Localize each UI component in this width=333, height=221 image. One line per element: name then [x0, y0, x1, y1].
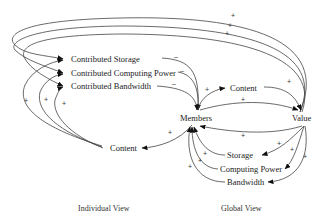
- polarity-plus: +: [228, 22, 232, 29]
- edge-value-to-members: [200, 126, 302, 132]
- polarity-plus: +: [24, 97, 28, 104]
- causal-loop-diagram: [0, 0, 333, 221]
- node-contributed-bandwidth: Contributed Bandwidth: [71, 82, 151, 91]
- polarity-plus: +: [44, 96, 48, 103]
- node-storage: Storage: [227, 151, 253, 160]
- edge-storage-to-members: [194, 127, 225, 155]
- edge-computing-to-members: [192, 127, 218, 169]
- node-computing-power: Computing Power: [220, 165, 282, 174]
- caption-individual-view: Individual View: [78, 204, 130, 213]
- edge-content-global-to-value: [264, 87, 301, 110]
- polarity-plus: +: [198, 157, 202, 164]
- edge-content-to-contributed-bandwidth: [55, 87, 103, 148]
- edge-contributed-storage-to-members: [162, 58, 198, 110]
- polarity-plus: +: [225, 30, 229, 37]
- polarity-minus: –: [180, 67, 184, 74]
- node-bandwidth: Bandwidth: [227, 178, 264, 187]
- node-contributed-storage: Contributed Storage: [71, 55, 140, 64]
- node-members: Members: [180, 114, 212, 123]
- edge-members-to-value: [200, 103, 298, 111]
- caption-global-view: Global View: [221, 204, 261, 213]
- polarity-plus: +: [62, 100, 66, 107]
- polarity-plus: +: [287, 78, 291, 85]
- polarity-plus: +: [203, 150, 207, 157]
- polarity-plus: +: [290, 146, 294, 153]
- polarity-plus: +: [168, 129, 172, 136]
- node-contributed-computing-power: Contributed Computing Power: [71, 69, 176, 78]
- polarity-plus: +: [188, 163, 192, 170]
- node-value: Value: [292, 114, 311, 123]
- polarity-plus: +: [241, 96, 245, 103]
- edge-members-to-content: [142, 125, 192, 148]
- polarity-minus: –: [172, 80, 176, 87]
- node-content-individual: Content: [110, 144, 137, 153]
- edge-value-to-contributed-storage: [12, 18, 306, 112]
- polarity-plus: +: [277, 140, 281, 147]
- edge-contributed-bandwidth-to-members: [157, 86, 197, 110]
- polarity-minus: –: [174, 53, 178, 60]
- polarity-plus: +: [303, 153, 307, 160]
- polarity-plus: +: [241, 132, 245, 139]
- node-content-global: Content: [230, 84, 257, 93]
- polarity-plus: +: [205, 86, 209, 93]
- polarity-plus: +: [231, 12, 235, 19]
